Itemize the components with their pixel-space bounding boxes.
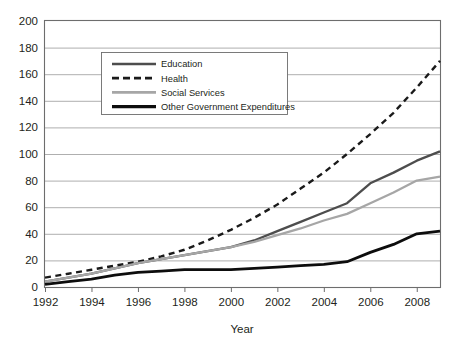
x-axis-title: Year [230, 323, 253, 335]
y-axis-tick-labels: 020406080100120140160180200 [19, 15, 38, 293]
x-tick-label: 1994 [79, 296, 105, 308]
chart-canvas: 020406080100120140160180200 199219941996… [0, 0, 456, 343]
legend: EducationHealthSocial ServicesOther Gove… [102, 53, 296, 115]
x-tick-label: 2002 [265, 296, 291, 308]
y-tick-label: 20 [25, 254, 38, 266]
y-tick-label: 160 [19, 68, 38, 80]
x-axis-tick-labels: 199219941996199820002002200420062008 [33, 296, 430, 308]
x-tick-label: 2000 [219, 296, 245, 308]
x-tick-label: 2004 [312, 296, 338, 308]
y-tick-label: 120 [19, 121, 38, 133]
y-tick-label: 200 [19, 15, 38, 27]
series-line-2 [45, 177, 440, 282]
x-tick-label: 1992 [33, 296, 59, 308]
legend-label-2: Social Services [161, 88, 225, 98]
y-tick-label: 60 [25, 201, 38, 213]
y-tick-label: 100 [19, 148, 38, 160]
legend-label-0: Education [161, 59, 202, 69]
x-tick-label: 2006 [358, 296, 384, 308]
x-tick-label: 1996 [126, 296, 152, 308]
y-tick-label: 40 [25, 228, 38, 240]
y-tick-label: 140 [19, 95, 38, 107]
series-line-0 [45, 151, 440, 281]
legend-label-1: Health [161, 74, 188, 84]
y-tick-label: 0 [32, 281, 38, 293]
y-tick-label: 180 [19, 42, 38, 54]
series-line-3 [45, 231, 440, 284]
line-chart: 020406080100120140160180200 199219941996… [0, 0, 456, 343]
y-tick-label: 80 [25, 175, 38, 187]
x-tick-label: 2008 [404, 296, 430, 308]
x-tick-label: 1998 [172, 296, 198, 308]
legend-label-3: Other Government Expenditures [161, 102, 295, 112]
